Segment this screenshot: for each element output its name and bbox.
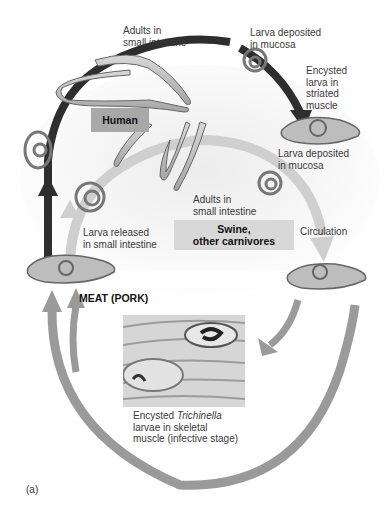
panel-label: (a) — [26, 484, 38, 495]
host-human-label: Human — [102, 114, 138, 126]
label-larva-deposited-top: Larva depositedin mucosa — [250, 27, 321, 50]
label-larva-released: Larva releasedin small intestine — [83, 227, 157, 250]
label-adults-swine: Adults insmall intestine — [193, 194, 256, 217]
host-swine-label-line2: other carnivores — [193, 235, 275, 247]
label-adults-human: Adults insmall intestine — [123, 25, 186, 48]
muscle-micrograph — [123, 315, 245, 407]
label-encysted-striated: Encystedlarva in striatedmuscle — [306, 65, 347, 111]
host-box-swine: Swine, other carnivores — [174, 220, 294, 250]
photo-caption: Encysted Trichinella larvae in skeletal … — [133, 410, 238, 445]
trichinella-life-cycle-diagram: Human Swine, other carnivores Adults ins… — [0, 0, 389, 508]
label-meat-pork: MEAT (PORK) — [79, 293, 148, 305]
host-box-human: Human — [91, 108, 149, 132]
host-swine-label-line1: Swine, — [193, 223, 275, 235]
label-larva-deposited-mid: Larva depositedin mucosa — [278, 148, 349, 171]
label-circulation: Circulation — [300, 226, 347, 238]
